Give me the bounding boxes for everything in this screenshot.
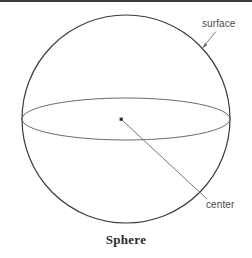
sphere-figure: surface center Sphere bbox=[0, 0, 252, 258]
center-point-marker bbox=[120, 118, 123, 121]
equator-ellipse bbox=[22, 98, 230, 140]
sphere-diagram-canvas bbox=[0, 0, 252, 258]
surface-label: surface bbox=[202, 18, 236, 29]
surface-arrowhead-icon bbox=[202, 43, 207, 49]
figure-caption: Sphere bbox=[0, 232, 252, 248]
center-leader-line bbox=[123, 121, 208, 200]
center-label: center bbox=[206, 199, 234, 210]
